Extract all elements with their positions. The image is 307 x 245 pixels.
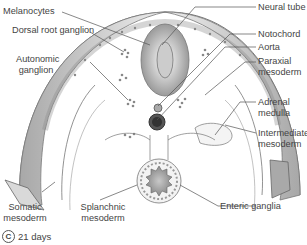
label-autonomic-ganglion: Autonomic ganglion (16, 54, 56, 75)
label-melanocytes: Melanocytes (3, 6, 55, 17)
label-somatic-line2: mesoderm (2, 213, 48, 224)
label-intermediate-mesoderm: Intermediate mesoderm (258, 128, 307, 149)
label-splanchnic-line1: Splanchnic (78, 202, 128, 213)
label-enteric-ganglia: Enteric ganglia (220, 201, 281, 212)
label-autonomic-line1: Autonomic (16, 54, 56, 65)
neural-canal (157, 42, 173, 78)
label-aorta: Aorta (258, 42, 280, 53)
label-somatic-mesoderm: Somatic mesoderm (2, 202, 48, 223)
label-dorsal-root-ganglion: Dorsal root ganglion (12, 25, 94, 36)
notochord (154, 104, 162, 112)
label-splanchnic-line2: mesoderm (78, 213, 128, 224)
label-somatic-line1: Somatic (2, 202, 48, 213)
label-splanchnic-mesoderm: Splanchnic mesoderm (78, 202, 128, 223)
panel-letter-badge: C (2, 230, 15, 243)
label-adrenal-line1: Adrenal (258, 97, 290, 108)
label-paraxial-line1: Paraxial (258, 56, 301, 67)
dorsal-mesentery (150, 135, 168, 160)
label-intermediate-line2: mesoderm (258, 139, 307, 150)
label-adrenal-medulla: Adrenal medulla (258, 97, 290, 118)
label-neural-tube: Neural tube (258, 2, 306, 13)
caption-text: 21 days (18, 231, 51, 242)
label-paraxial-mesoderm: Paraxial mesoderm (258, 56, 301, 77)
label-intermediate-line1: Intermediate (258, 128, 307, 139)
label-notochord: Notochord (258, 29, 300, 40)
label-adrenal-line2: medulla (258, 108, 290, 119)
label-autonomic-line2: ganglion (16, 65, 56, 76)
label-paraxial-line2: mesoderm (258, 67, 301, 78)
figure-caption: C 21 days (2, 230, 51, 243)
